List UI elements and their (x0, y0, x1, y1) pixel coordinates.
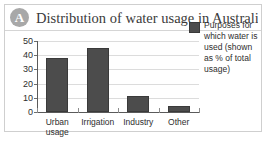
gridline (38, 55, 199, 56)
y-axis-tick-mark (34, 98, 37, 99)
y-axis-tick-label: 50 (17, 37, 33, 46)
x-axis-category-label: Industry (118, 117, 159, 127)
y-axis-tick-label: 30 (17, 65, 33, 74)
x-axis-tick-mark (118, 108, 119, 113)
x-axis-category-label: Urban usage (37, 117, 78, 137)
bar (168, 106, 190, 112)
y-axis-tick-mark (34, 41, 37, 42)
bar (127, 96, 149, 112)
gridline (38, 41, 199, 42)
legend-swatch-icon (189, 22, 200, 33)
legend-label: Purposes for which water is used (shown … (204, 20, 261, 75)
y-axis-tick-mark (34, 69, 37, 70)
y-axis-tick-label: 0 (17, 108, 33, 117)
x-axis-tick-mark (37, 108, 38, 113)
figure-badge: A (10, 8, 29, 27)
y-axis-tick-mark (34, 84, 37, 85)
chart-figure: A Distribution of water usage in Austral… (4, 4, 262, 132)
x-axis-tick-mark (199, 108, 200, 113)
bar (46, 58, 68, 112)
x-axis-category-label: Other (159, 117, 200, 127)
y-axis-tick-label: 10 (17, 94, 33, 103)
y-axis-tick-mark (34, 55, 37, 56)
x-axis-category-label: Irrigation (78, 117, 119, 127)
y-axis-tick-label: 40 (17, 51, 33, 60)
y-axis-line (37, 41, 38, 112)
y-axis-tick-label: 20 (17, 80, 33, 89)
x-axis-tick-mark (78, 108, 79, 113)
bar (87, 48, 109, 112)
x-axis-tick-mark (159, 108, 160, 113)
